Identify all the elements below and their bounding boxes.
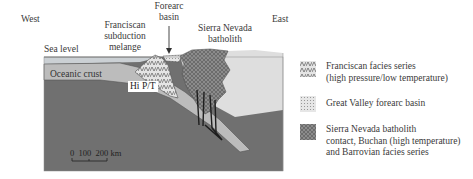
forearc-basin [163, 55, 182, 62]
legend-item-forearc: Great Valley forearc basin [300, 96, 425, 112]
legend-item-franciscan: Franciscan facies series (high pressure/… [300, 61, 448, 84]
forearc-basin-label: Forearc basin [148, 1, 190, 23]
hi-pt-label: Hi P/T [128, 81, 158, 92]
west-label: West [21, 14, 40, 25]
scale-bar-labels: 0 100 200 km [70, 148, 121, 159]
batholith-label: Sierra Nevada batholith [190, 23, 260, 45]
franciscan-swatch-icon [300, 61, 316, 77]
forearc-arrow-icon [166, 26, 172, 54]
forearc-swatch-icon [300, 96, 316, 112]
franciscan-label: Franciscan subduction melange [100, 20, 150, 53]
oceanic-crust-label: Oceanic crust [50, 69, 102, 80]
batholith-swatch-icon [300, 124, 316, 140]
east-label: East [272, 14, 288, 25]
sea-level-label: Sea level [44, 44, 79, 55]
legend-item-batholith: Sierra Nevada batholith contact, Buchan … [300, 124, 461, 159]
legend: Franciscan facies series (high pressure/… [300, 0, 473, 179]
